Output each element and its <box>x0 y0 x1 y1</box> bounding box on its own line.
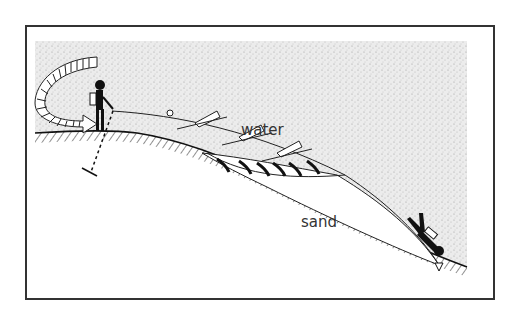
diagram-frame: water sand <box>25 25 495 300</box>
sand-label: sand <box>301 213 337 231</box>
water-label: water <box>241 121 284 139</box>
diagram-canvas <box>27 27 495 300</box>
